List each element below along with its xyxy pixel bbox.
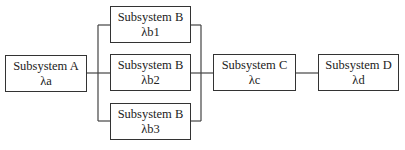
block-name: Subsystem C	[222, 58, 288, 73]
failure-rate: λb3	[141, 122, 160, 137]
block-name: Subsystem B	[118, 107, 184, 122]
block-subsystem-b1: Subsystem B λb1	[110, 6, 191, 43]
failure-rate: λa	[40, 74, 52, 89]
block-name: Subsystem B	[118, 58, 184, 73]
block-subsystem-b3: Subsystem B λb3	[110, 103, 191, 140]
block-subsystem-a: Subsystem A λa	[5, 55, 87, 92]
failure-rate: λb1	[141, 25, 160, 40]
block-subsystem-d: Subsystem D λd	[318, 54, 399, 91]
failure-rate: λd	[352, 73, 364, 88]
block-name: Subsystem B	[118, 10, 184, 25]
block-name: Subsystem D	[325, 58, 391, 73]
block-name: Subsystem A	[13, 59, 79, 74]
block-subsystem-c: Subsystem C λc	[213, 54, 296, 91]
failure-rate: λb2	[141, 73, 160, 88]
failure-rate: λc	[249, 73, 261, 88]
block-subsystem-b2: Subsystem B λb2	[110, 54, 191, 91]
